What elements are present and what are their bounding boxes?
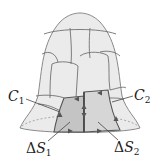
bell-surface-diagram: [0, 0, 160, 163]
label-subscript: 1: [46, 148, 52, 158]
label-symbol: S: [36, 140, 46, 156]
label-delta-s2: ΔS2: [114, 140, 139, 157]
label-subscript: 2: [134, 147, 140, 157]
label-symbol: C: [134, 87, 145, 103]
label-c1: C1: [8, 89, 24, 106]
label-prefix: Δ: [114, 139, 124, 155]
label-symbol: C: [8, 88, 19, 104]
label-symbol: S: [124, 139, 134, 155]
label-prefix: Δ: [26, 140, 36, 156]
label-c2: C2: [134, 88, 150, 105]
label-subscript: 1: [19, 96, 25, 106]
label-subscript: 2: [145, 95, 151, 105]
label-delta-s1: ΔS1: [26, 141, 51, 158]
